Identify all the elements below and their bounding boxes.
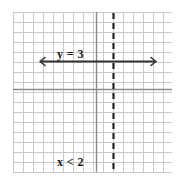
equation-label-y-equals-3: y = 3 [57, 47, 84, 61]
coordinate-grid-figure: y = 3 x < 2 [0, 0, 187, 187]
graph-canvas: y = 3 x < 2 [0, 0, 187, 187]
inequality-label-x-less-than-2: x < 2 [57, 155, 84, 169]
